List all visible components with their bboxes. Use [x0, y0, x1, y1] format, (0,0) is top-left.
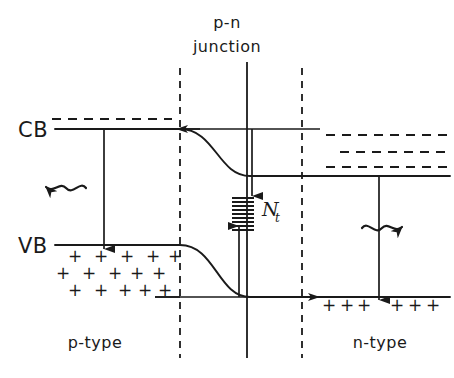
charge-plus: +	[68, 280, 82, 300]
charge-plus: +	[168, 246, 182, 266]
charge-plus: +	[118, 280, 132, 300]
conduction-band-p-segment	[55, 129, 256, 176]
photon-emission-p-side-icon	[46, 186, 86, 191]
charge-plus: +	[408, 295, 422, 315]
conduction-band-label: CB	[18, 118, 48, 142]
pn-junction-band-diagram: p-n junction CB VB	[0, 0, 454, 378]
charge-plus: +	[138, 280, 152, 300]
diagram-title-line1: p-n	[213, 13, 241, 32]
valence-band-label: VB	[18, 234, 48, 258]
diagram-canvas: p-n junction CB VB	[0, 0, 454, 378]
region-label-p-type: p-type	[68, 333, 123, 352]
charge-plus: +	[426, 295, 440, 315]
p-side-charge-symbols: + + + + + + + + + + + + + + +	[56, 246, 182, 300]
trap-density-subscript-label: t	[275, 211, 280, 225]
charge-plus: +	[357, 295, 371, 315]
charge-plus: +	[390, 295, 404, 315]
diagram-title-line2: junction	[192, 37, 261, 56]
photon-emission-n-side-icon	[362, 226, 402, 231]
charge-plus: +	[94, 280, 108, 300]
region-label-n-type: n-type	[353, 333, 408, 352]
n-side-charge-symbols: + + + + + +	[322, 295, 440, 315]
trap-level-ladder	[232, 198, 254, 230]
charge-plus: +	[340, 295, 354, 315]
charge-plus: +	[322, 295, 336, 315]
